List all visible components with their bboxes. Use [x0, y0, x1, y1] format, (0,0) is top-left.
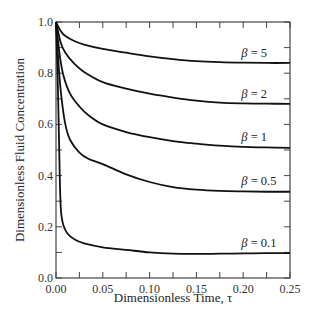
- series-label: β = 0.5: [240, 174, 276, 188]
- y-tick-label: 0.6: [38, 117, 53, 131]
- y-tick-label: 0.8: [38, 66, 53, 80]
- x-axis-title: Dimensionless Time, τ: [114, 290, 232, 305]
- x-tick-label: 0.20: [233, 282, 254, 296]
- series-label: β = 2: [240, 87, 267, 101]
- y-tick-label: 0.4: [38, 169, 53, 183]
- y-tick-label: 1.0: [38, 15, 53, 29]
- series-label: β = 1: [240, 130, 267, 144]
- x-tick-label: 0.05: [92, 282, 113, 296]
- y-axis-title: Dimensionless Fluid Concentration: [12, 57, 27, 242]
- series-label: β = 5: [240, 46, 267, 60]
- series-label: β = 0.1: [240, 236, 276, 250]
- x-tick-label: 0.25: [280, 282, 301, 296]
- y-tick-label: 0.0: [38, 271, 53, 285]
- y-tick-label: 0.2: [38, 220, 53, 234]
- concentration-chart: 0.000.050.100.150.200.250.00.20.40.60.81…: [0, 0, 313, 329]
